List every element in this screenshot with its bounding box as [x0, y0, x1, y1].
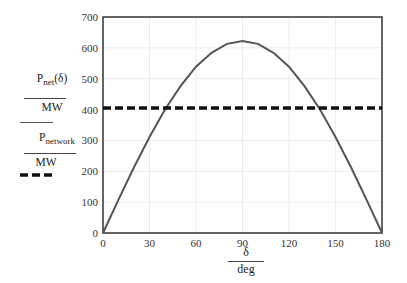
y-tick-label: 200 [82, 165, 99, 177]
x-tick-label: 150 [327, 237, 344, 249]
legend-pnetwork-subscript: network [45, 136, 75, 146]
x-tick-label: 120 [281, 237, 298, 249]
y-tick-label: 400 [82, 104, 99, 116]
legend-pnet-subscript: net [43, 77, 54, 87]
legend-entry-pnet-label: Pnet(δ) [20, 72, 84, 87]
y-tick-label: 700 [82, 11, 99, 23]
legend-pnet-unit: MW [20, 101, 84, 113]
legend-pnetwork-fraction-bar [24, 153, 76, 154]
legend-entry-pnetwork-label: Pnetwork [22, 131, 92, 146]
x-axis-label-denominator: deg [228, 262, 264, 277]
y-tick-label: 100 [82, 196, 99, 208]
x-tick-label: 30 [144, 237, 156, 249]
x-tick-label: 0 [100, 237, 106, 249]
x-axis-label-numerator: δ [228, 245, 264, 260]
y-tick-label: 500 [82, 73, 99, 85]
legend-pnetwork-unit: MW [14, 156, 78, 168]
legend-pnet-line-sample [20, 122, 53, 123]
x-tick-label: 180 [374, 237, 391, 249]
y-tick-label: 600 [82, 42, 99, 54]
legend-pnetwork-line-sample [20, 172, 56, 178]
legend-pnet-fraction-bar [24, 98, 66, 99]
y-tick-label: 0 [93, 227, 99, 239]
x-tick-label: 60 [191, 237, 203, 249]
legend-pnet-argument: (δ) [54, 72, 67, 84]
x-axis-label: δ deg [228, 245, 264, 277]
